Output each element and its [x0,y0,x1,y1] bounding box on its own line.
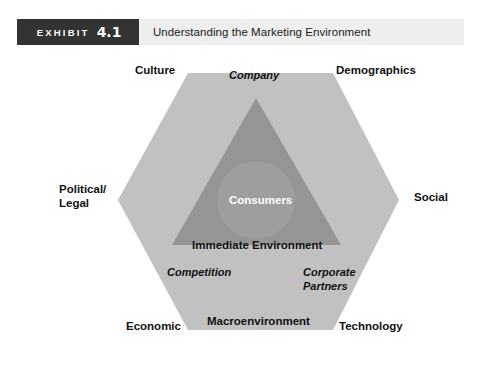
label-corporate-partners: Corporate Partners [303,266,356,293]
label-corporate-partners-line1: Corporate [303,266,356,280]
label-corporate-partners-line2: Partners [303,280,356,294]
label-political-legal-line1: Political/ [59,183,106,197]
label-macroenvironment: Macroenvironment [207,315,310,329]
label-company: Company [229,69,279,83]
label-demographics: Demographics [336,64,416,78]
exhibit-label: EXHIBIT [35,27,90,38]
label-economic: Economic [126,320,181,334]
label-political-legal-line2: Legal [59,197,106,211]
label-immediate-environment: Immediate Environment [192,239,322,253]
label-technology: Technology [339,320,403,334]
exhibit-title: Understanding the Marketing Environment [139,19,464,45]
label-culture: Culture [135,64,175,78]
label-consumers: Consumers [229,194,292,208]
exhibit-tag-badge: EXHIBIT 4.1 [17,19,139,45]
exhibit-header: EXHIBIT 4.1 Understanding the Marketing … [17,19,464,45]
label-competition: Competition [167,266,231,280]
label-social: Social [414,191,448,205]
exhibit-number: 4.1 [97,24,122,40]
label-political-legal: Political/ Legal [59,183,106,210]
marketing-environment-diagram: Culture Demographics Political/ Legal So… [0,52,481,367]
